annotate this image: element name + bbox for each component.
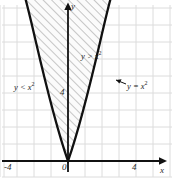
annotation-curve-equation-text: y = x (127, 81, 145, 91)
y-tick-label-4: 4 (60, 88, 65, 97)
x-tick-label-0: 0 (62, 163, 67, 172)
curve-callout-leader (116, 79, 126, 84)
annotation-curve-equation-exponent: 2 (145, 80, 148, 86)
parabola-inequality-chart: -4 0 4 4 x y y > x2 y < x2 y = x2 (0, 0, 173, 184)
chart-canvas (0, 0, 173, 184)
y-axis-label: y (71, 2, 75, 11)
annotation-region-below: y < x2 (14, 81, 35, 91)
annotation-region-above: y > x2 (81, 50, 102, 60)
annotation-region-below-exponent: 2 (32, 81, 35, 87)
annotation-region-above-text: y > x (81, 51, 99, 61)
x-tick-label-4: 4 (132, 163, 137, 172)
x-axis-label: x (160, 166, 164, 175)
annotation-region-above-exponent: 2 (99, 50, 102, 56)
annotation-curve-equation: y = x2 (127, 80, 148, 90)
x-tick-label-neg4: -4 (4, 163, 12, 172)
annotation-region-below-text: y < x (14, 82, 32, 92)
